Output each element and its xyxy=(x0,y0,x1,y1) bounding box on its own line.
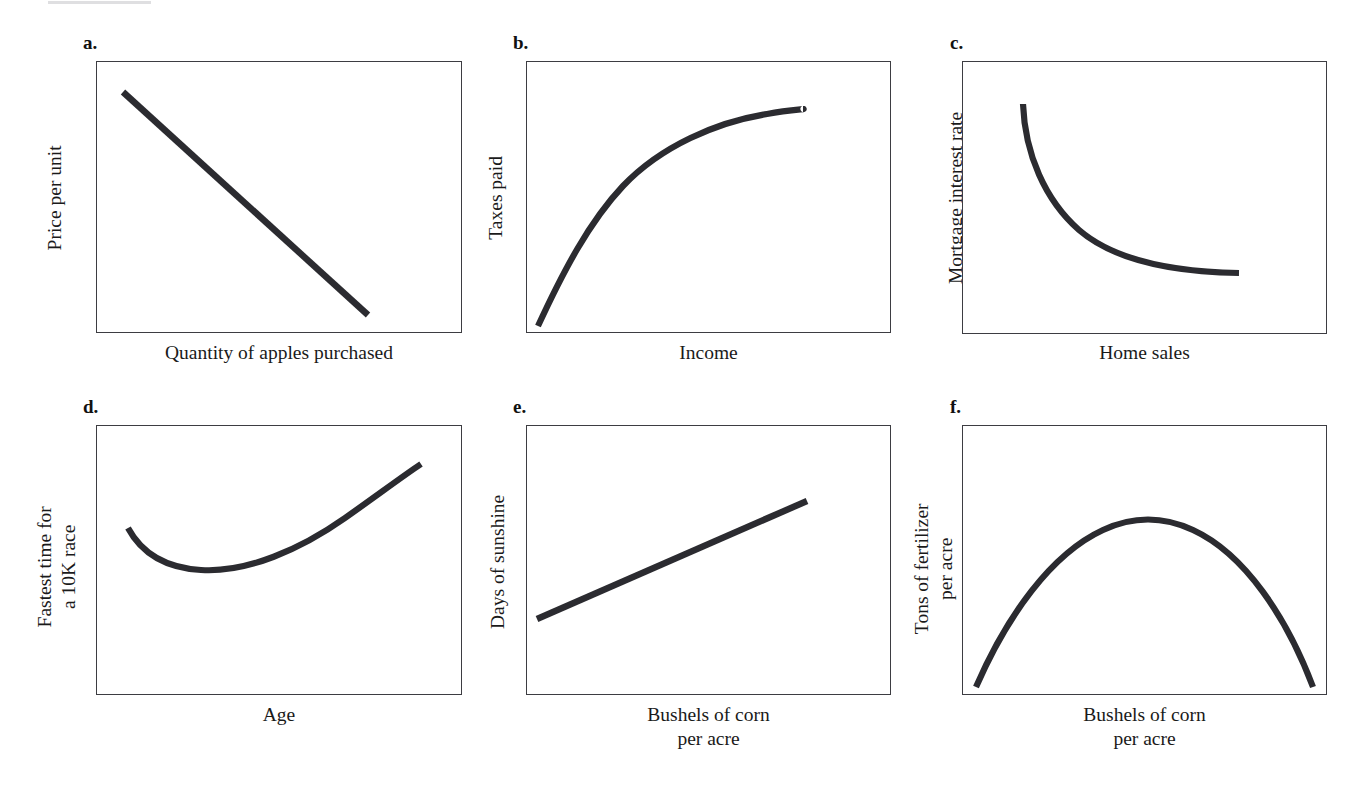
panel-f-ylabel: Tons of fertilizer per acre xyxy=(910,469,958,669)
panel-f-xlabel: Bushels of corn per acre xyxy=(962,703,1327,751)
figure-grid: a. Price per unit Quantity of apples pur… xyxy=(0,0,1365,790)
panel-f-curve xyxy=(976,520,1313,688)
panel-f: f. Tons of fertilizer per acre Bushels o… xyxy=(0,0,1365,790)
panel-f-curve-svg xyxy=(963,426,1328,696)
panel-f-plot-box xyxy=(962,425,1327,695)
panel-f-letter: f. xyxy=(950,397,961,416)
